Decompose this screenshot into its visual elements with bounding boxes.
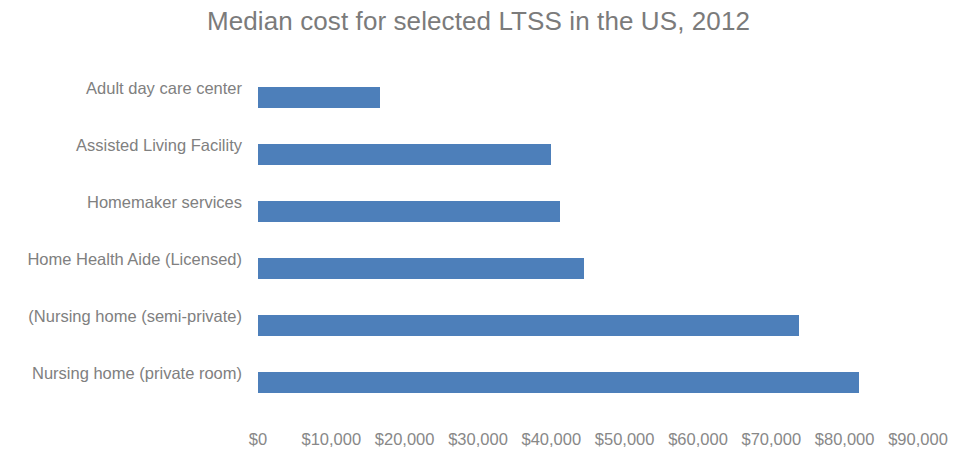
plot-area: Adult day care center Assisted Living Fa… (258, 78, 918, 420)
bar-row: Home Health Aide (Licensed) (258, 249, 918, 306)
bar-home-health-aide-licensed[interactable] (258, 258, 584, 279)
bar-assisted-living-facility[interactable] (258, 144, 551, 165)
category-label-home-health-aide-licensed: Home Health Aide (Licensed) (0, 249, 242, 270)
chart-container: Median cost for selected LTSS in the US,… (0, 0, 957, 456)
x-axis-tick-label: $80,000 (815, 430, 875, 449)
chart-title: Median cost for selected LTSS in the US,… (0, 6, 957, 37)
x-axis-tick-label: $50,000 (595, 430, 655, 449)
bar-homemaker-services[interactable] (258, 201, 560, 222)
bar-row: (Nursing home (semi-private) (258, 306, 918, 363)
x-axis: $0$10,000$20,000$30,000$40,000$50,000$60… (258, 420, 918, 456)
x-axis-tick-label: $90,000 (888, 430, 948, 449)
category-label-homemaker-services: Homemaker services (0, 192, 242, 213)
category-label-nursing-home-semi-private: (Nursing home (semi-private) (0, 306, 242, 327)
category-label-assisted-living-facility: Assisted Living Facility (0, 135, 242, 156)
bar-nursing-home-private-room[interactable] (258, 372, 859, 393)
category-label-adult-day-care-center: Adult day care center (0, 78, 242, 99)
category-label-nursing-home-private-room: Nursing home (private room) (0, 363, 242, 384)
x-axis-tick-label: $60,000 (668, 430, 728, 449)
bar-row: Adult day care center (258, 78, 918, 135)
bar-row: Homemaker services (258, 192, 918, 249)
x-axis-tick-label: $10,000 (302, 430, 362, 449)
bar-adult-day-care-center[interactable] (258, 87, 380, 108)
x-axis-tick-label: $40,000 (522, 430, 582, 449)
bar-row: Nursing home (private room) (258, 363, 918, 420)
x-axis-tick-label: $70,000 (742, 430, 802, 449)
x-axis-tick-label: $20,000 (375, 430, 435, 449)
bar-row: Assisted Living Facility (258, 135, 918, 192)
bar-nursing-home-semi-private[interactable] (258, 315, 799, 336)
x-axis-tick-label: $30,000 (448, 430, 508, 449)
x-axis-tick-label: $0 (249, 430, 267, 449)
